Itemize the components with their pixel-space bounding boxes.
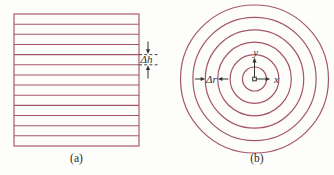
panel-b: x y Δr (b) xyxy=(181,5,329,165)
delta-r-left-pointing-arrowhead-icon xyxy=(218,77,223,81)
center-square-marker xyxy=(253,77,257,81)
delta-h-label: Δh xyxy=(140,53,153,65)
x-axis-label: x xyxy=(273,73,279,85)
panel-a: Δh (a) xyxy=(14,14,160,165)
panel-b-caption: (b) xyxy=(250,152,264,165)
x-axis-arrowhead-icon xyxy=(266,77,271,81)
figure-canvas: Δh (a) x y Δr (b) xyxy=(0,0,334,175)
y-axis-arrowhead-icon xyxy=(252,58,256,63)
panel-a-caption: (a) xyxy=(70,152,83,165)
delta-r-annotation: Δr xyxy=(195,73,229,85)
stripes-group xyxy=(14,24,139,136)
up-arrowhead-icon xyxy=(146,65,150,70)
delta-h-annotation: Δh xyxy=(139,42,160,79)
delta-r-label: Δr xyxy=(205,73,217,85)
y-axis-label: y xyxy=(252,46,258,58)
delta-r-right-pointing-arrowhead-icon xyxy=(201,77,206,81)
